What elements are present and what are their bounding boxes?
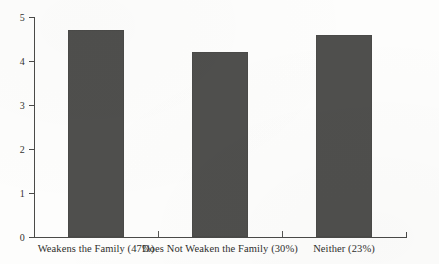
x-axis-category-label: Does Not Weaken the Family (30%) bbox=[142, 243, 298, 255]
y-axis-tick-label: 1 bbox=[20, 189, 25, 199]
y-axis-tick-label: 4 bbox=[20, 57, 25, 67]
plot-area bbox=[34, 17, 406, 237]
y-axis-tick-label: 2 bbox=[20, 145, 25, 155]
x-axis-category-label: Weakens the Family (47%) bbox=[38, 243, 155, 255]
y-axis-tick-label: 5 bbox=[20, 13, 25, 23]
x-axis-category-label: Neither (23%) bbox=[313, 243, 375, 255]
bar bbox=[192, 52, 248, 237]
y-axis-tick-label: 3 bbox=[20, 101, 25, 111]
bar bbox=[68, 30, 124, 237]
bar bbox=[316, 35, 372, 237]
y-axis-tick-label: 0 bbox=[20, 233, 25, 243]
bar-chart: 012345 Weakens the Family (47%)Does Not … bbox=[0, 0, 439, 264]
x-axis-line bbox=[34, 237, 406, 238]
x-axis-end-cap bbox=[406, 232, 407, 238]
